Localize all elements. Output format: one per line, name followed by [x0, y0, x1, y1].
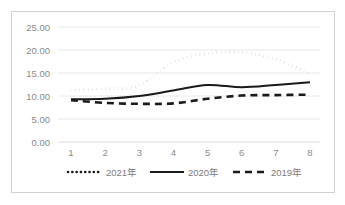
y-tick-label: 25.00: [26, 22, 50, 33]
legend-label-2020年[interactable]: 2020年: [188, 167, 219, 178]
x-tick-label: 2: [102, 147, 107, 158]
x-tick-label: 6: [239, 147, 244, 158]
legend-label-2019年[interactable]: 2019年: [271, 167, 302, 178]
x-tick-label: 3: [137, 147, 142, 158]
legend: 2021年2020年2019年: [68, 167, 302, 178]
x-tick-label: 7: [273, 147, 278, 158]
chart-canvas: 0.005.0010.0015.0020.0025.00123456782021…: [0, 0, 345, 205]
y-tick-label: 20.00: [26, 45, 50, 56]
y-tick-label: 10.00: [26, 91, 50, 102]
y-axis-labels: 0.005.0010.0015.0020.0025.00: [26, 22, 50, 148]
y-tick-label: 15.00: [26, 68, 50, 79]
series-line-2020年: [71, 82, 310, 99]
legend-label-2021年[interactable]: 2021年: [106, 167, 137, 178]
y-tick-label: 5.00: [32, 114, 51, 125]
x-tick-label: 8: [307, 147, 312, 158]
y-tick-label: 0.00: [32, 137, 51, 148]
x-tick-label: 4: [171, 147, 176, 158]
x-tick-label: 5: [205, 147, 210, 158]
x-axis-labels: 12345678: [68, 147, 312, 158]
x-tick-label: 1: [68, 147, 73, 158]
line-chart: 0.005.0010.0015.0020.0025.00123456782021…: [0, 0, 345, 205]
